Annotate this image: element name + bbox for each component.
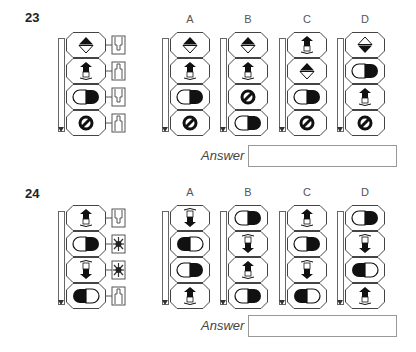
pill-right-filled-icon [170, 257, 210, 283]
plug-down-icon [106, 205, 120, 223]
no-entry-icon [287, 110, 327, 136]
sequence-arrow-icon [337, 211, 344, 305]
pill-right-filled-icon [66, 231, 106, 257]
sequence-arrow-icon [162, 211, 169, 305]
sequence-arrow-icon [58, 211, 65, 305]
sequence-arrow-icon [162, 38, 169, 132]
pill-right-filled-icon [345, 58, 385, 84]
option-label-c: C [287, 186, 327, 198]
plug-up-icon [106, 110, 120, 128]
pill-right-filled-icon [228, 283, 268, 309]
diamond-top-filled-icon [66, 32, 106, 58]
plug-up-icon [106, 283, 120, 301]
pill-right-filled-icon [287, 84, 327, 110]
option-label-a: A [170, 13, 210, 25]
diamond-top-filled-icon [287, 58, 327, 84]
sequence-arrow-icon [337, 38, 344, 132]
no-entry-icon [228, 84, 268, 110]
no-entry-icon [170, 110, 210, 136]
option-a[interactable] [162, 32, 212, 136]
pill-left-filled-icon [66, 283, 106, 309]
option-d[interactable] [337, 205, 387, 309]
pill-right-filled-icon [345, 205, 385, 231]
question-number: 23 [25, 10, 39, 25]
arrow-down-icon [66, 257, 106, 283]
option-b[interactable] [220, 205, 270, 309]
question-number: 24 [25, 186, 39, 201]
diamond-top-filled-icon [170, 32, 210, 58]
sequence-arrow-icon [220, 211, 227, 305]
arrow-up-icon [170, 58, 210, 84]
arrow-up-icon [287, 32, 327, 58]
connector-column [106, 32, 128, 136]
option-label-d: D [345, 186, 385, 198]
pill-left-filled-icon [345, 257, 385, 283]
connector-column [106, 205, 128, 309]
answer-input[interactable] [248, 315, 397, 337]
arrow-down-icon [287, 257, 327, 283]
arrow-up-icon [66, 58, 106, 84]
star-burst-icon [106, 231, 120, 249]
no-entry-icon [345, 110, 385, 136]
option-b[interactable] [220, 32, 270, 136]
pill-right-filled-icon [228, 205, 268, 231]
option-label-d: D [345, 13, 385, 25]
arrow-up-icon [228, 257, 268, 283]
plug-down-icon [106, 84, 120, 102]
sequence-arrow-icon [279, 38, 286, 132]
arrow-up-icon [170, 283, 210, 309]
answer-input[interactable] [248, 145, 397, 167]
option-c[interactable] [279, 32, 329, 136]
arrow-up-icon [287, 205, 327, 231]
pill-right-filled-icon [66, 84, 106, 110]
pill-left-filled-icon [287, 283, 327, 309]
option-c[interactable] [279, 205, 329, 309]
sequence-arrow-icon [58, 38, 65, 132]
plug-up-icon [106, 58, 120, 76]
arrow-down-icon [228, 231, 268, 257]
answer-label: Answer [201, 318, 244, 333]
arrow-down-icon [345, 231, 385, 257]
arrow-down-icon [170, 205, 210, 231]
option-label-a: A [170, 186, 210, 198]
option-a[interactable] [162, 205, 212, 309]
sequence-arrow-icon [279, 211, 286, 305]
star-burst-icon [106, 257, 120, 275]
pill-left-filled-icon [170, 231, 210, 257]
option-d[interactable] [337, 32, 387, 136]
option-label-b: B [228, 186, 268, 198]
pill-right-filled-icon [170, 84, 210, 110]
source-stack [58, 32, 108, 136]
arrow-up-icon [228, 58, 268, 84]
diamond-top-filled-icon [228, 32, 268, 58]
no-entry-icon [66, 110, 106, 136]
pill-right-filled-icon [228, 110, 268, 136]
answer-label: Answer [201, 148, 244, 163]
option-label-b: B [228, 13, 268, 25]
option-label-c: C [287, 13, 327, 25]
plug-down-icon [106, 32, 120, 50]
sequence-arrow-icon [220, 38, 227, 132]
source-stack [58, 205, 108, 309]
arrow-up-icon [66, 205, 106, 231]
arrow-up-icon [345, 283, 385, 309]
pill-right-filled-icon [287, 231, 327, 257]
arrow-up-icon [345, 84, 385, 110]
diamond-bottom-filled-icon [345, 32, 385, 58]
